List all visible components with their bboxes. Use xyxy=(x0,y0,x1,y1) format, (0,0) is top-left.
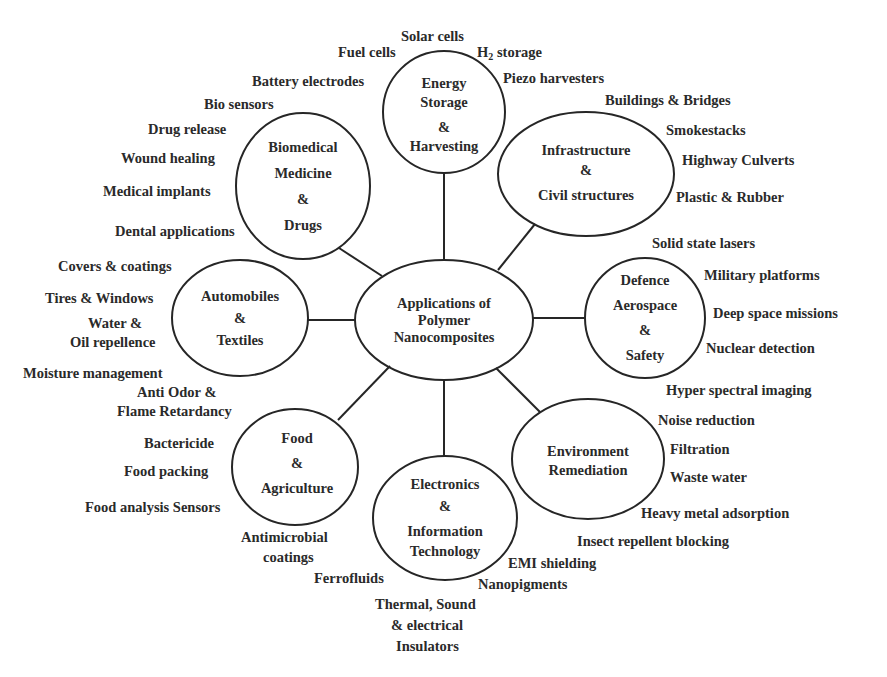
connector-food xyxy=(338,366,390,420)
automobiles-label: Automobiles & Textiles xyxy=(201,285,279,351)
electronics-item-emi-shielding: EMI shielding xyxy=(508,555,596,572)
automobiles-item-moisture-management: Moisture management xyxy=(23,365,162,382)
biomedical-item-wound-healing: Wound healing xyxy=(121,150,215,167)
energy-item-piezo-harvesters: Piezo harvesters xyxy=(503,70,604,87)
defence-label: Defence Aerospace & Safety xyxy=(613,268,677,368)
environment-item-insect-repellent-blocking: Insect repellent blocking xyxy=(577,533,729,550)
energy-line-3: & xyxy=(410,118,478,137)
food-item-food-packing: Food packing xyxy=(124,463,208,480)
automobiles-item-flame-retardancy: Flame Retardancy xyxy=(117,403,232,420)
automobiles-item-covers-coatings: Covers & coatings xyxy=(58,258,172,275)
infrastructure-line-2: & xyxy=(538,160,634,180)
electronics-line-4: Technology xyxy=(407,541,483,561)
energy-item-battery-electrodes: Battery electrodes xyxy=(252,73,364,90)
environment-item-filtration: Filtration xyxy=(670,441,730,458)
defence-line-2: Aerospace xyxy=(613,293,677,318)
electronics-line-2: & xyxy=(407,496,483,516)
defence-line-3: & xyxy=(613,318,677,343)
food-label: Food & Agriculture xyxy=(261,426,333,501)
energy-item-solar-cells: Solar cells xyxy=(401,28,464,45)
energy-line-2: Storage xyxy=(410,93,478,112)
defence-line-1: Defence xyxy=(613,268,677,293)
environment-line-2: Remediation xyxy=(547,461,629,480)
electronics-line-3: Information xyxy=(407,521,483,541)
automobiles-line-3: Textiles xyxy=(201,329,279,351)
connector-biomedical xyxy=(339,248,382,276)
defence-item-military-platforms: Military platforms xyxy=(704,267,820,284)
biomedical-item-drug-release: Drug release xyxy=(148,121,226,138)
energy-item-fuel-cells: Fuel cells xyxy=(338,44,396,61)
automobiles-line-1: Automobiles xyxy=(201,285,279,307)
defence-item-deep-space-missions: Deep space missions xyxy=(713,305,838,322)
food-item-food-analysis-sensors: Food analysis Sensors xyxy=(85,499,220,516)
biomedical-label: Biomedical Medicine & Drugs xyxy=(268,134,337,238)
food-line-2: & xyxy=(261,451,333,476)
center-label: Applications of Polymer Nanocomposites xyxy=(394,295,495,346)
biomedical-item-medical-implants: Medical implants xyxy=(103,183,211,200)
infrastructure-item-plastic-rubber: Plastic & Rubber xyxy=(676,189,784,206)
food-item-coatings: coatings xyxy=(263,549,314,566)
automobiles-item-water: Water & xyxy=(88,315,142,332)
center-line-3: Nanocomposites xyxy=(394,329,495,346)
defence-item-hyper-spectral-imaging: Hyper spectral imaging xyxy=(666,382,812,399)
electronics-item-insulators: Insulators xyxy=(396,638,459,655)
environment-item-waste-water: Waste water xyxy=(670,469,747,486)
biomedical-item-dental-applications: Dental applications xyxy=(115,223,235,240)
food-line-3: Agriculture xyxy=(261,476,333,501)
defence-item-solid-state-lasers: Solid state lasers xyxy=(652,235,755,252)
infrastructure-line-1: Infrastructure xyxy=(538,140,634,160)
infrastructure-item-smokestacks: Smokestacks xyxy=(666,122,746,139)
energy-line-4: Harvesting xyxy=(410,137,478,156)
defence-item-nuclear-detection: Nuclear detection xyxy=(706,340,815,357)
infrastructure-label: Infrastructure & Civil structures xyxy=(538,140,634,205)
energy-line-1: Energy xyxy=(410,74,478,93)
automobiles-item-tires-windows: Tires & Windows xyxy=(45,290,154,307)
infrastructure-line-3: Civil structures xyxy=(538,185,634,205)
automobiles-line-2: & xyxy=(201,307,279,329)
environment-item-noise-reduction: Noise reduction xyxy=(658,412,755,429)
connector-environment xyxy=(496,368,540,412)
automobiles-item-anti-odor: Anti Odor & xyxy=(137,384,217,401)
electronics-item-ferrofluids: Ferrofluids xyxy=(314,570,384,587)
energy-item-h2-storage: H2 storage xyxy=(477,44,542,61)
storage-word: storage xyxy=(493,44,542,60)
environment-label: Environment Remediation xyxy=(547,442,629,480)
biomedical-line-1: Biomedical xyxy=(268,134,337,160)
biomedical-line-2: Medicine xyxy=(268,160,337,186)
biomedical-item-bio-sensors: Bio sensors xyxy=(204,96,274,113)
environment-item-heavy-metal-adsorption: Heavy metal adsorption xyxy=(641,505,789,522)
energy-label: Energy Storage & Harvesting xyxy=(410,74,478,156)
h-symbol: H xyxy=(477,44,488,60)
center-line-2: Polymer xyxy=(394,312,495,329)
biomedical-line-3: & xyxy=(268,186,337,212)
infrastructure-item-highway-culverts: Highway Culverts xyxy=(682,152,794,169)
infrastructure-item-buildings-bridges: Buildings & Bridges xyxy=(605,92,731,109)
food-line-1: Food xyxy=(261,426,333,451)
applications-diagram: Applications of Polymer Nanocomposites E… xyxy=(0,0,887,677)
food-item-bactericide: Bactericide xyxy=(144,435,214,452)
connector-infrastructure xyxy=(498,224,535,270)
center-line-1: Applications of xyxy=(394,295,495,312)
electronics-item-electrical: & electrical xyxy=(391,617,463,634)
electronics-item-nanopigments: Nanopigments xyxy=(478,576,567,593)
food-item-antimicrobial: Antimicrobial xyxy=(241,529,328,546)
automobiles-item-oil-repellence: Oil repellence xyxy=(70,334,156,351)
electronics-item-thermal-sound: Thermal, Sound xyxy=(375,596,476,613)
biomedical-line-4: Drugs xyxy=(268,212,337,238)
defence-line-4: Safety xyxy=(613,343,677,368)
environment-line-1: Environment xyxy=(547,442,629,461)
electronics-line-1: Electronics xyxy=(407,474,483,494)
electronics-label: Electronics & Information Technology xyxy=(407,474,483,561)
